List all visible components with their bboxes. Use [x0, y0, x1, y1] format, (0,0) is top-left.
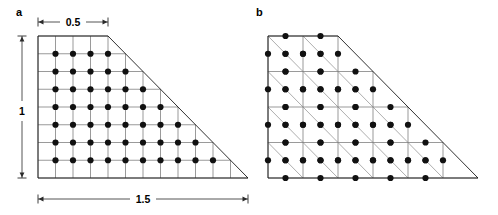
integration-point [157, 157, 163, 163]
integration-point [335, 86, 341, 92]
integration-point [192, 157, 198, 163]
integration-point [265, 122, 271, 128]
integration-point [282, 86, 288, 92]
panel-label-b: b [256, 6, 263, 18]
integration-point [387, 139, 393, 145]
integration-point [282, 104, 288, 110]
integration-point [317, 104, 323, 110]
integration-point [265, 86, 271, 92]
integration-point [282, 122, 288, 128]
integration-point [140, 104, 146, 110]
integration-point [422, 157, 428, 163]
dimension-arrowhead [20, 173, 25, 178]
integration-point [105, 68, 111, 74]
integration-point [317, 33, 323, 39]
integration-point [282, 139, 288, 145]
integration-point [122, 104, 128, 110]
integration-point [157, 139, 163, 145]
integration-point [352, 104, 358, 110]
integration-point [405, 122, 411, 128]
integration-point [87, 104, 93, 110]
figure-root: a b 0.511.5 [0, 0, 498, 215]
integration-point [300, 157, 306, 163]
integration-point [105, 104, 111, 110]
integration-point [352, 86, 358, 92]
integration-point [300, 122, 306, 128]
integration-point [52, 86, 58, 92]
integration-point [122, 157, 128, 163]
integration-point [87, 86, 93, 92]
integration-point [122, 68, 128, 74]
dimension-arrowhead [39, 197, 44, 202]
integration-point [105, 157, 111, 163]
dimension-annotations: 0.511.5 [18, 16, 249, 205]
integration-point [157, 122, 163, 128]
integration-point [157, 104, 163, 110]
integration-point [140, 122, 146, 128]
integration-point [87, 122, 93, 128]
integration-point [387, 175, 393, 181]
integration-point [387, 104, 393, 110]
integration-point [317, 51, 323, 57]
integration-point [192, 139, 198, 145]
integration-point [105, 139, 111, 145]
integration-point [70, 139, 76, 145]
integration-point [317, 122, 323, 128]
integration-point [282, 51, 288, 57]
integration-point [370, 157, 376, 163]
integration-point [300, 51, 306, 57]
integration-point [422, 139, 428, 145]
integration-point [335, 122, 341, 128]
integration-point [210, 157, 216, 163]
integration-point [122, 139, 128, 145]
integration-point [352, 68, 358, 74]
integration-point [265, 51, 271, 57]
integration-point [140, 157, 146, 163]
dimension-arrowhead [243, 197, 248, 202]
integration-point [422, 175, 428, 181]
dimension-arrowhead [20, 37, 25, 42]
integration-point [370, 86, 376, 92]
integration-point [70, 104, 76, 110]
integration-point [122, 122, 128, 128]
dimension-arrowhead [39, 20, 44, 25]
integration-point [317, 68, 323, 74]
integration-point [87, 139, 93, 145]
integration-point [335, 157, 341, 163]
integration-point [70, 51, 76, 57]
panel-b [265, 33, 478, 181]
integration-point [440, 157, 446, 163]
integration-point [70, 122, 76, 128]
integration-point [70, 86, 76, 92]
integration-point [52, 68, 58, 74]
panel-a [38, 36, 248, 178]
integration-point [317, 175, 323, 181]
integration-point [70, 157, 76, 163]
integration-point [370, 122, 376, 128]
integration-point [335, 51, 341, 57]
integration-point [175, 157, 181, 163]
dimension-label: 0.5 [66, 16, 81, 28]
integration-point [352, 122, 358, 128]
integration-point [52, 157, 58, 163]
integration-point [282, 175, 288, 181]
mesh-comparison-figure: a b 0.511.5 [0, 0, 498, 215]
panel-label-a: a [16, 6, 23, 18]
integration-point [52, 122, 58, 128]
integration-point [70, 68, 76, 74]
integration-point [140, 139, 146, 145]
integration-point [317, 139, 323, 145]
integration-point [175, 139, 181, 145]
integration-point [87, 157, 93, 163]
integration-point [282, 68, 288, 74]
integration-point [317, 86, 323, 92]
integration-point [265, 157, 271, 163]
integration-point [87, 51, 93, 57]
integration-point [300, 86, 306, 92]
integration-point [352, 157, 358, 163]
integration-point [87, 68, 93, 74]
integration-point [387, 157, 393, 163]
integration-point [317, 157, 323, 163]
integration-point [282, 157, 288, 163]
integration-point [122, 86, 128, 92]
